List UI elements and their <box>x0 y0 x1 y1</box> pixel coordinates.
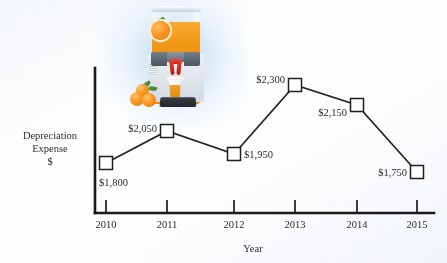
x-tick-label-2015: 2015 <box>407 219 428 230</box>
x-tick-label-2012: 2012 <box>224 219 245 230</box>
data-label-2012: $1,950 <box>244 149 273 160</box>
x-tick-label-2011: 2011 <box>157 219 178 230</box>
data-label-2010: $1,800 <box>99 177 128 188</box>
y-axis-title-line1: Depreciation <box>23 130 78 141</box>
data-point-2011[interactable] <box>161 125 174 138</box>
data-label-2015: $1,750 <box>378 167 407 178</box>
data-label-2014: $2,150 <box>318 107 347 118</box>
chart-figure: $1,800 $2,050 $1,950 $2,300 $2,150 $1,75… <box>0 0 447 263</box>
x-axis-title: Year <box>243 243 263 254</box>
line-chart: $1,800 $2,050 $1,950 $2,300 $2,150 $1,75… <box>0 0 447 263</box>
data-point-2014[interactable] <box>351 99 364 112</box>
y-axis-title-line3: $ <box>47 156 52 167</box>
data-label-2011: $2,050 <box>128 123 157 134</box>
data-label-2013: $2,300 <box>256 74 285 85</box>
data-point-2013[interactable] <box>289 79 302 92</box>
data-point-2012[interactable] <box>228 148 241 161</box>
x-tick-label-2013: 2013 <box>285 219 306 230</box>
x-tick-label-2010: 2010 <box>96 219 117 230</box>
data-point-2015[interactable] <box>411 166 424 179</box>
x-tick-label-2014: 2014 <box>347 219 369 230</box>
data-point-2010[interactable] <box>100 157 113 170</box>
y-axis-title-line2: Expense <box>32 143 68 154</box>
